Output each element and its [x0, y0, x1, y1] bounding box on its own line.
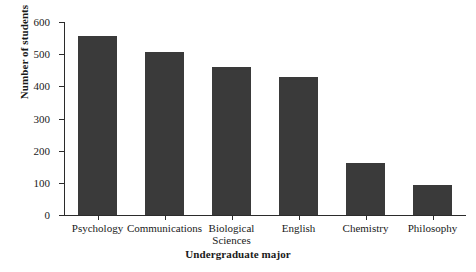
y-tick-label: 100 — [34, 177, 51, 189]
x-tick — [366, 215, 367, 220]
y-tick: 300 — [59, 119, 64, 120]
x-tick-label: English — [282, 222, 316, 234]
x-tick — [299, 215, 300, 220]
y-axis-line — [64, 22, 65, 216]
x-axis-line — [64, 215, 466, 216]
y-tick-label: 500 — [34, 48, 51, 60]
y-axis-title: Number of students — [18, 0, 30, 132]
x-tick — [165, 215, 166, 220]
x-tick-label: Chemistry — [343, 222, 389, 234]
x-tick — [433, 215, 434, 220]
y-tick-label: 200 — [34, 145, 51, 157]
x-axis-title: Undergraduate major — [0, 248, 476, 260]
x-tick — [232, 215, 233, 220]
bar — [145, 52, 184, 215]
y-tick: 400 — [59, 86, 64, 87]
y-tick: 600 — [59, 22, 64, 23]
bar-chart: Number of students 0100200300400500600 P… — [0, 0, 476, 272]
y-tick-label: 400 — [34, 80, 51, 92]
x-tick — [98, 215, 99, 220]
y-tick: 200 — [59, 151, 64, 152]
bar — [78, 36, 117, 215]
y-tick: 500 — [59, 54, 64, 55]
bar — [212, 67, 251, 215]
x-tick-label: Psychology — [72, 222, 123, 234]
y-tick: 100 — [59, 183, 64, 184]
x-tick-label: Communications — [127, 222, 202, 234]
y-tick-label: 0 — [45, 209, 51, 221]
bar — [413, 185, 452, 215]
y-tick-label: 600 — [34, 16, 51, 28]
x-tick-label: Philosophy — [408, 222, 458, 234]
y-tick-label: 300 — [34, 113, 51, 125]
bar — [279, 77, 318, 215]
y-tick: 0 — [59, 215, 64, 216]
plot-area: 0100200300400500600 PsychologyCommunicat… — [64, 22, 466, 215]
bar — [346, 163, 385, 215]
x-tick-label: Biological Sciences — [209, 222, 255, 246]
